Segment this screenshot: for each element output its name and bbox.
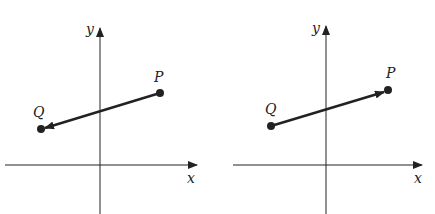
left-panel: y x P Q [5,21,197,214]
x-axis-label: x [187,170,195,186]
point-q [267,122,275,130]
point-p-label: P [385,65,396,81]
point-q [37,125,45,133]
y-axis-label: y [85,21,95,37]
point-p-label: P [153,69,164,85]
vector-diagram: y x P Q y x P Q [0,0,435,214]
point-p [384,86,392,94]
x-axis-label: x [414,170,422,186]
y-axis-label: y [311,20,321,36]
right-panel: y x P Q [233,20,422,214]
point-p [156,89,164,97]
point-q-label: Q [265,101,277,117]
point-q-label: Q [33,104,45,120]
vector-pq [45,93,160,128]
vector-qp [271,92,384,126]
